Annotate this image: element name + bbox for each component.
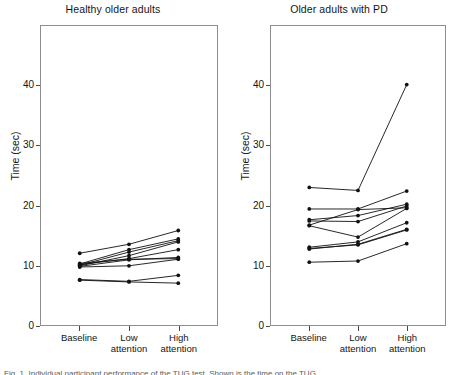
data-point [307,224,311,228]
data-point [307,186,311,190]
data-point [405,242,409,246]
data-point [78,265,82,269]
data-point [78,262,82,266]
data-point [405,227,409,231]
data-point [127,242,131,246]
data-point [78,251,82,255]
x-axis-label-line: High [371,333,443,344]
y-axis-tick: 0 [0,326,40,327]
subject-line [309,191,406,209]
y-axis-tick: 10 [0,266,40,267]
plot-lines-right [271,26,445,325]
y-tick-mark [36,206,40,207]
data-point [127,250,131,254]
y-tick-label: 30 [253,138,264,151]
data-point [356,208,360,212]
data-point [307,219,311,223]
x-axis-tick [309,326,310,331]
data-point [127,280,131,284]
data-point [307,247,311,251]
x-axis-label: Highattention [143,333,215,354]
plot-frame-left [40,25,218,326]
y-axis-tick: 0 [226,326,270,327]
y-tick-mark [266,266,270,267]
y-tick-label: 0 [258,319,264,332]
y-axis-line-right [270,25,271,326]
data-point [356,214,360,218]
y-tick-mark [266,206,270,207]
subject-line [309,85,406,191]
y-axis-tick: 40 [0,85,40,86]
data-point [405,207,409,211]
y-tick-label: 20 [23,199,34,212]
y-tick-mark [36,266,40,267]
data-point [176,229,180,233]
data-point [356,242,360,246]
x-axis-label-line: attention [371,344,443,355]
panel-title-left: Healthy older adults [0,3,226,15]
data-point [356,220,360,224]
x-axis-label-line: attention [143,344,215,355]
data-point [356,259,360,263]
y-tick-label: 10 [253,259,264,272]
y-tick-mark [266,326,270,327]
figure-caption: Fig. 1. Individual participant performan… [4,369,448,375]
x-axis-tick [358,326,359,331]
y-axis-tick: 10 [226,266,270,267]
y-tick-mark [266,85,270,86]
data-point [176,281,180,285]
data-point [176,248,180,252]
data-point [78,278,82,282]
data-point [405,189,409,193]
plot-frame-right [270,25,446,326]
y-tick-label: 10 [23,259,34,272]
y-axis-title-left: Time (sec) [9,96,21,216]
y-tick-mark [266,145,270,146]
x-axis-tick [407,326,408,331]
data-point [405,83,409,87]
y-tick-mark [36,85,40,86]
data-point [356,235,360,239]
x-axis-tick [129,326,130,331]
data-point [127,257,131,261]
y-axis-tick: 40 [226,85,270,86]
panel-title-right: Older adults with PD [226,3,452,15]
data-point [307,207,311,211]
data-point [127,264,131,268]
data-point [176,257,180,261]
y-tick-label: 40 [253,78,264,91]
x-axis-label-line: High [143,333,215,344]
y-axis-title-right: Time (sec) [239,96,251,216]
data-point [356,189,360,193]
y-axis-line-left [40,25,41,326]
x-axis-tick [79,326,80,331]
data-point [176,240,180,244]
y-tick-mark [36,326,40,327]
y-tick-mark [36,145,40,146]
x-axis-label: Highattention [371,333,443,354]
panel-healthy-older-adults: Healthy older adults 010203040 Time (sec… [0,0,226,374]
y-tick-label: 30 [23,138,34,151]
y-tick-label: 40 [23,78,34,91]
y-tick-label: 0 [28,319,34,332]
data-point [176,273,180,277]
data-point [307,260,311,264]
plot-lines-left [41,26,217,325]
panel-older-adults-with-pd: Older adults with PD 010203040 Time (sec… [226,0,452,374]
x-axis-tick [179,326,180,331]
data-point [405,221,409,225]
y-tick-label: 20 [253,199,264,212]
